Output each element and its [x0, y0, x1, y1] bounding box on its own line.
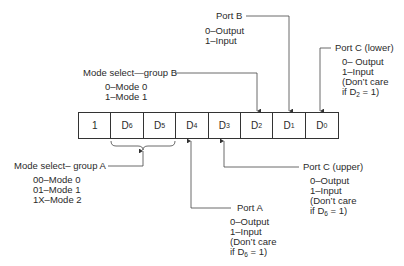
port-c-upper-arrow [224, 141, 299, 167]
bit-cell-2: D2 [241, 113, 273, 138]
bit-cell-1: D1 [273, 113, 305, 138]
port-b-arrow [246, 16, 289, 111]
bit-cell-4: D4 [176, 113, 208, 138]
port-c-lower-arrow [320, 48, 331, 111]
port-b-option-1: 1–Input [205, 35, 237, 46]
port-b-title: Port B [216, 10, 242, 21]
mode-b-option-1: 1–Mode 1 [105, 91, 147, 102]
bit-cell-7: 1 [79, 113, 111, 138]
bit-cell-3: D3 [209, 113, 241, 138]
bit-cell-0: D0 [306, 113, 338, 138]
bit-cell-5: D5 [144, 113, 176, 138]
bit-cell-6: D6 [111, 113, 143, 138]
mode-b-arrow [175, 73, 257, 111]
brace-d6-d5 [111, 141, 175, 150]
mode-a-arrow [108, 151, 143, 166]
control-word-register: 1 D6 D5 D4 D3 D2 D1 D0 [78, 112, 339, 139]
port-c-upper-title: Port C (upper) [303, 161, 363, 172]
port-a-condition: if D6 = 1) [230, 246, 267, 260]
mode-a-option-1x: 1X–Mode 2 [33, 194, 82, 205]
mode-a-title: Mode select– group A [14, 160, 106, 171]
port-a-title: Port A [237, 202, 263, 213]
mode-b-title: Mode select—group B [83, 67, 177, 78]
port-c-upper-condition: if D6 = 1) [310, 205, 347, 219]
port-a-arrow [191, 141, 231, 208]
port-c-lower-condition: if D2 = 1) [342, 86, 379, 100]
port-c-lower-title: Port C (lower) [335, 42, 394, 53]
